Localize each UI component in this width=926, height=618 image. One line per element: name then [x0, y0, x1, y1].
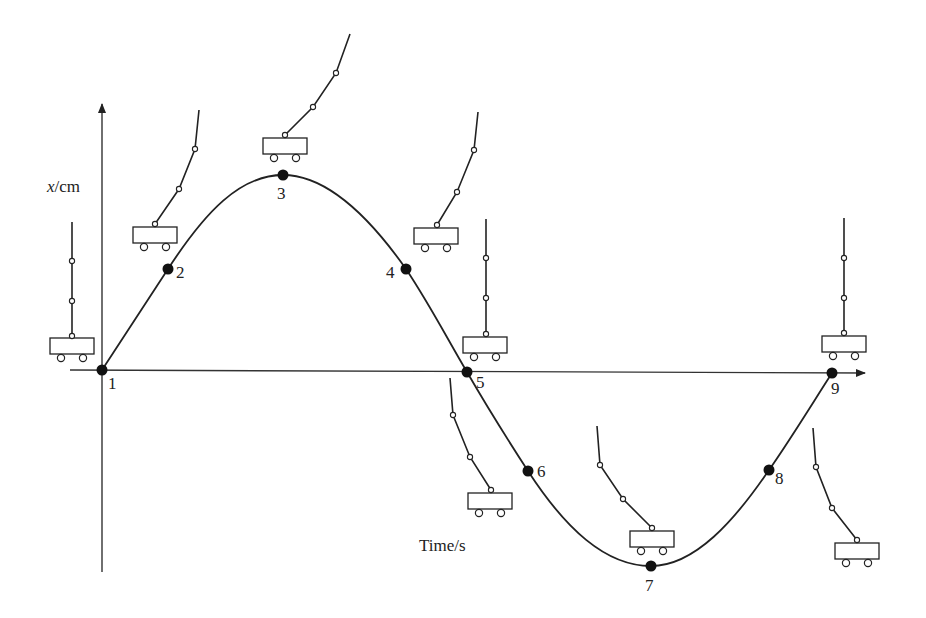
point-dot-icon [646, 561, 657, 572]
point-label: 4 [386, 263, 395, 282]
point-label: 3 [277, 184, 286, 203]
point-dot-icon [523, 466, 534, 477]
joint-icon [483, 331, 488, 336]
hanging-rod [597, 426, 652, 528]
joint-icon [192, 146, 197, 151]
hanging-rod [437, 112, 478, 225]
cart-body-icon [822, 336, 866, 352]
cart-body-icon [50, 338, 94, 354]
hanging-rod [813, 428, 857, 540]
cart-3 [263, 34, 350, 162]
joint-icon [813, 464, 818, 469]
marked-point-1: 1 [97, 365, 117, 394]
point-label: 7 [645, 576, 654, 595]
point-label: 6 [537, 462, 546, 481]
joint-icon [488, 487, 493, 492]
hanging-rod [450, 378, 491, 490]
joint-icon [829, 505, 834, 510]
y-axis-label: x/cm [46, 177, 80, 196]
wheel-icon [421, 244, 428, 251]
joint-icon [471, 147, 476, 152]
wheel-icon [497, 509, 504, 516]
cart-9 [822, 218, 866, 360]
cart-4 [414, 112, 478, 252]
joint-icon [282, 132, 287, 137]
cart-5 [463, 219, 507, 361]
marked-point-8: 8 [764, 465, 784, 489]
marked-point-4: 4 [386, 263, 412, 282]
wheel-icon [443, 244, 450, 251]
joint-icon [310, 104, 315, 109]
joint-icon [69, 333, 74, 338]
wheel-icon [270, 154, 277, 161]
point-dot-icon [462, 367, 473, 378]
joint-icon [69, 258, 74, 263]
wheel-icon [162, 243, 169, 250]
displacement-time-diagram: x/cm Time/s 123456789 [0, 0, 926, 618]
joint-icon [152, 221, 157, 226]
point-dot-icon [97, 365, 108, 376]
joint-icon [841, 330, 846, 335]
wheel-icon [829, 352, 836, 359]
joint-icon [483, 295, 488, 300]
point-label: 9 [831, 379, 840, 398]
cart-body-icon [463, 337, 507, 353]
cart-2 [133, 110, 199, 251]
point-dot-icon [827, 368, 838, 379]
joint-icon [597, 462, 602, 467]
joint-icon [69, 298, 74, 303]
point-label: 8 [775, 469, 784, 488]
cart-body-icon [630, 531, 674, 547]
wheel-icon [659, 547, 666, 554]
marked-point-2: 2 [163, 263, 185, 282]
point-label: 2 [176, 263, 185, 282]
joint-icon [483, 255, 488, 260]
wheel-icon [842, 559, 849, 566]
wheel-icon [637, 547, 644, 554]
joint-icon [841, 255, 846, 260]
x-axis-label: Time/s [419, 536, 466, 555]
wheel-icon [475, 509, 482, 516]
carts-layer [50, 34, 879, 567]
hanging-rod [155, 110, 199, 224]
cart-1 [50, 222, 94, 362]
cart-body-icon [133, 227, 177, 243]
cart-body-icon [414, 228, 458, 244]
cart-7 [597, 426, 674, 555]
wheel-icon [470, 353, 477, 360]
marked-point-6: 6 [523, 462, 546, 481]
joint-icon [841, 295, 846, 300]
wheel-icon [140, 243, 147, 250]
point-dot-icon [401, 264, 412, 275]
wheel-icon [57, 354, 64, 361]
point-label: 1 [108, 374, 117, 393]
cart-body-icon [835, 543, 879, 559]
cart-body-icon [263, 138, 307, 154]
wheel-icon [79, 354, 86, 361]
marked-point-3: 3 [277, 170, 289, 204]
point-dot-icon [764, 465, 775, 476]
hanging-rod [285, 34, 350, 135]
wheel-icon [492, 353, 499, 360]
marked-point-7: 7 [645, 561, 657, 596]
joint-icon [434, 222, 439, 227]
point-label: 5 [476, 373, 485, 392]
wheel-icon [292, 154, 299, 161]
point-dot-icon [163, 264, 174, 275]
joint-icon [467, 454, 472, 459]
joint-icon [854, 537, 859, 542]
joint-icon [454, 189, 459, 194]
points-layer: 123456789 [97, 170, 840, 596]
joint-icon [333, 70, 338, 75]
cart-6 [450, 378, 512, 517]
joint-icon [450, 412, 455, 417]
marked-point-5: 5 [462, 367, 485, 393]
marked-point-9: 9 [827, 368, 840, 399]
joint-icon [649, 525, 654, 530]
wheel-icon [864, 559, 871, 566]
cart-10 [813, 428, 879, 567]
joint-icon [620, 496, 625, 501]
joint-icon [176, 186, 181, 191]
wheel-icon [851, 352, 858, 359]
cart-body-icon [468, 493, 512, 509]
